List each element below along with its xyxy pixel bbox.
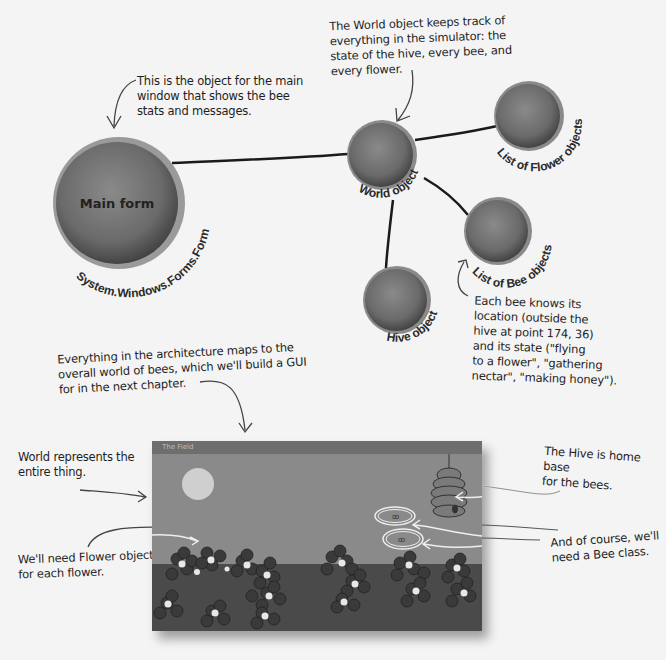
flower-cluster [154, 545, 476, 629]
connector-world-bees [424, 178, 468, 215]
main-form-inner-label: Main form [80, 196, 155, 211]
hive-note: The Hive is home base for the bees. [542, 444, 666, 497]
main-form-note: This is the object for the main window t… [137, 74, 303, 119]
note-line: window that shows the bee [137, 89, 303, 104]
note-line: World represents the [18, 450, 134, 465]
world-node: World object [347, 120, 421, 201]
connector-world-flowers [415, 126, 497, 140]
world-object-note: The World object keeps track of everythi… [329, 13, 513, 79]
flower-objects-note: We'll need Flower objects for each flowe… [18, 548, 160, 583]
note-line: entire thing. [18, 465, 134, 480]
world-represents-note: World represents the entire thing. [18, 450, 134, 480]
field-scene: ꝏ ꝏ [152, 441, 482, 631]
arrow-to-bee-2 [423, 539, 482, 549]
arrow-to-world [396, 70, 413, 121]
flowers-node: List of Flower objects [494, 81, 585, 174]
bee-icon: ꝏ [375, 507, 415, 525]
note-line: stats and messages. [137, 104, 303, 119]
svg-text:ꝏ: ꝏ [392, 513, 399, 521]
connector-mainform-world [172, 154, 348, 163]
connector-world-hive [386, 200, 393, 268]
beehive-icon [431, 454, 467, 517]
svg-text:ꝏ: ꝏ [398, 536, 405, 544]
arrow-to-bee-1 [413, 520, 482, 536]
arrow-to-flower [152, 535, 198, 545]
note-line: This is the object for the main [137, 74, 303, 89]
arrow-to-main-form [107, 80, 136, 128]
bee-icon: ꝏ [383, 529, 423, 549]
arrow-to-hive [456, 492, 482, 501]
hive-node: Hive object [363, 266, 440, 345]
arrow-world-represents [80, 490, 146, 502]
arrow-to-bees [458, 260, 468, 296]
flower-icon [321, 545, 358, 575]
field-window: The Field ꝏ ꝏ [152, 441, 482, 631]
bee-location-note: Each bee knows its location (outside the… [471, 293, 619, 388]
bees-node: List of Bee objects [464, 197, 555, 291]
